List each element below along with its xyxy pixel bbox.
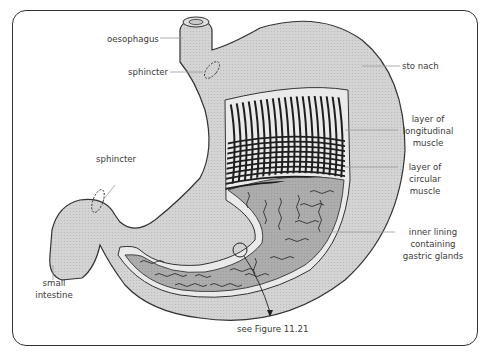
- label-stomach: sto nach: [402, 60, 439, 72]
- label-longitudinal-muscle: layer of longitudinal muscle: [398, 113, 458, 149]
- label-sphincter-bottom: sphincter: [96, 153, 136, 165]
- label-circular-muscle: layer of circular muscle: [398, 161, 452, 197]
- label-see-figure: see Figure 11.21: [237, 323, 308, 335]
- label-small-intestine: small intestine: [31, 277, 77, 301]
- label-sphincter-top: sphincter: [128, 66, 168, 78]
- label-oesophagus: oesophagus: [107, 33, 159, 45]
- label-inner-lining: inner lining containing gastric glands: [393, 226, 473, 262]
